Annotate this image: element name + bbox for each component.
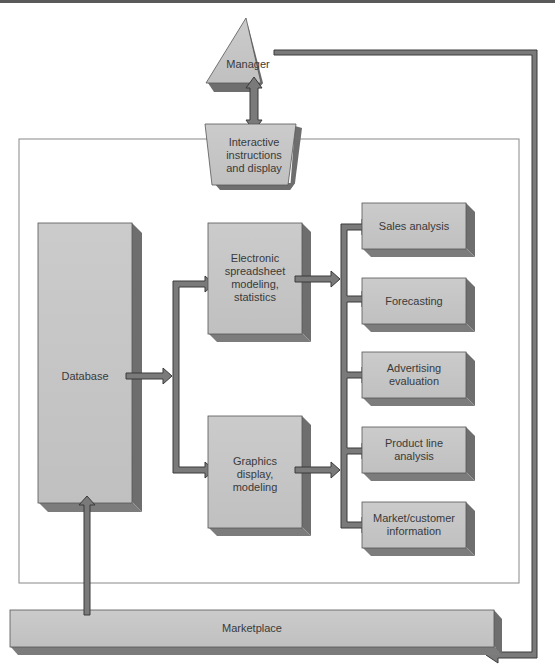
- database-label: Database: [38, 368, 132, 384]
- output-label-forecasting: Forecasting: [362, 278, 466, 324]
- output-label-advertising: Advertising evaluation: [362, 352, 466, 398]
- diagram-canvas: [0, 0, 555, 666]
- graphics-label: Graphics display, modeling: [208, 452, 302, 496]
- bidirectional-arrow-manager-interactive: [246, 77, 262, 131]
- manager-label: Manager: [214, 56, 282, 72]
- arrow-marketplace-to-database: [79, 496, 95, 615]
- spreadsheet-label: Electronic spreadsheet modeling, statist…: [208, 250, 302, 306]
- output-label-market-customer: Market/customer information: [362, 502, 466, 548]
- output-label-product-line: Product line analysis: [362, 427, 466, 473]
- marketplace-label: Marketplace: [10, 610, 494, 647]
- output-label-sales-analysis: Sales analysis: [362, 203, 466, 249]
- interactive-label: Interactive instructions and display: [212, 133, 296, 177]
